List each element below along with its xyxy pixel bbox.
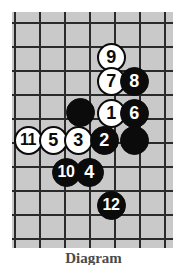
grid-line-horizontal-2 xyxy=(12,70,173,72)
go-stone-move-number: 3 xyxy=(73,131,83,149)
go-diagram-figure: 978161153210412 Diagram xyxy=(0,0,187,265)
go-stone-move-12: 12 xyxy=(97,191,126,220)
go-board: 978161153210412 xyxy=(12,12,173,248)
grid-line-horizontal-8 xyxy=(12,214,173,216)
go-stone-move-4: 4 xyxy=(75,158,104,187)
go-stone-move-2: 2 xyxy=(90,126,119,155)
go-stone-move-number: 1 xyxy=(106,104,116,122)
grid-line-horizontal-7 xyxy=(12,190,173,192)
go-stone-move-number: 6 xyxy=(129,104,139,122)
go-stone-move-number: 7 xyxy=(106,72,116,90)
go-stone-move-number: 10 xyxy=(58,164,75,180)
go-stone-move-3: 3 xyxy=(64,126,93,155)
go-stone-move-number: 4 xyxy=(84,163,94,181)
go-stone-move-number: 2 xyxy=(99,131,109,149)
go-stone-move-number: 8 xyxy=(129,72,139,90)
go-stone-move-number: 11 xyxy=(20,132,36,148)
figure-caption: Diagram xyxy=(0,250,187,265)
grid-line-horizontal-9 xyxy=(12,238,173,240)
grid-line-horizontal-0 xyxy=(12,22,173,24)
go-stone-move-number: 5 xyxy=(48,131,58,149)
go-stone-move-number: 12 xyxy=(103,197,120,213)
go-stone-move-6: 6 xyxy=(120,99,149,128)
go-stone-black-3 xyxy=(66,98,95,127)
grid-line-horizontal-3 xyxy=(12,94,173,96)
grid-line-horizontal-1 xyxy=(12,46,173,48)
go-stone-move-8: 8 xyxy=(120,67,149,96)
go-stone-black-10 xyxy=(120,126,149,155)
go-stone-move-number: 9 xyxy=(106,48,116,66)
